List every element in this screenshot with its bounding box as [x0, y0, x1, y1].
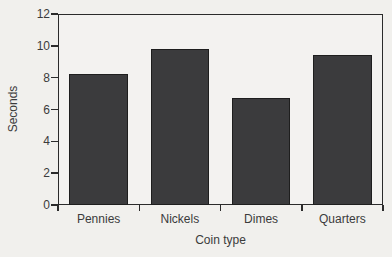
x-tick-mark	[382, 205, 384, 211]
bar-quarters	[313, 55, 372, 205]
y-tick-mark	[51, 172, 58, 174]
bar-nickels	[151, 49, 210, 205]
y-tick-label: 2	[0, 166, 50, 180]
y-tick-mark	[51, 13, 58, 15]
y-tick-label: 8	[0, 71, 50, 85]
bar-chart: Seconds 024681012 PenniesNickelsDimesQua…	[0, 0, 392, 257]
x-tick-mark	[301, 205, 303, 211]
y-tick-label: 12	[0, 7, 50, 21]
bar-dimes	[232, 98, 291, 205]
y-tick-label: 6	[0, 103, 50, 117]
x-tick-mark	[57, 205, 59, 211]
y-tick-mark	[51, 45, 58, 47]
bar-pennies	[69, 74, 128, 205]
x-tick-mark	[139, 205, 141, 211]
y-tick-mark	[51, 141, 58, 143]
y-tick-mark	[51, 109, 58, 111]
y-tick-mark	[51, 77, 58, 79]
x-axis-title: Coin type	[160, 233, 281, 247]
category-label-pennies: Pennies	[54, 212, 144, 226]
x-tick-mark	[220, 205, 222, 211]
category-label-quarters: Quarters	[297, 212, 387, 226]
category-label-nickels: Nickels	[135, 212, 225, 226]
y-tick-label: 0	[0, 198, 50, 212]
y-tick-label: 10	[0, 39, 50, 53]
y-tick-label: 4	[0, 134, 50, 148]
category-label-dimes: Dimes	[216, 212, 306, 226]
